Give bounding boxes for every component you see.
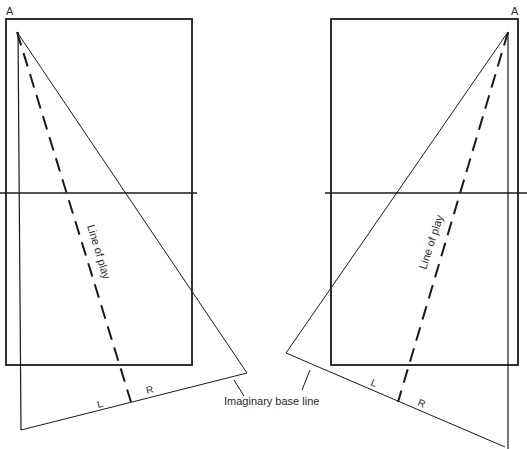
left-court-outline xyxy=(6,19,192,365)
left-panel xyxy=(0,19,247,430)
left-callout-leader xyxy=(234,380,244,396)
left-line-of-play xyxy=(17,32,131,402)
left-apex-label: A xyxy=(6,5,14,17)
left-panel-l-label: L xyxy=(96,398,104,410)
right-panel xyxy=(286,19,527,449)
left-line-of-play-label: Line of play xyxy=(85,223,113,281)
imaginary-base-line-callout: Imaginary base line xyxy=(224,395,319,407)
right-panel-l-label: L xyxy=(369,377,379,389)
left-angle-line xyxy=(17,32,247,373)
right-line-of-play xyxy=(398,32,508,402)
left-panel-r-label: R xyxy=(145,384,155,396)
diagram-canvas: A A Line of play Line of play L R L R Im… xyxy=(0,0,527,449)
right-line-of-play-label: Line of play xyxy=(416,213,445,271)
left-base-line xyxy=(21,373,247,430)
left-sideline xyxy=(18,32,21,430)
right-callout-leader xyxy=(302,370,310,390)
right-panel-r-label: R xyxy=(416,397,427,410)
right-apex-label: A xyxy=(511,5,519,17)
